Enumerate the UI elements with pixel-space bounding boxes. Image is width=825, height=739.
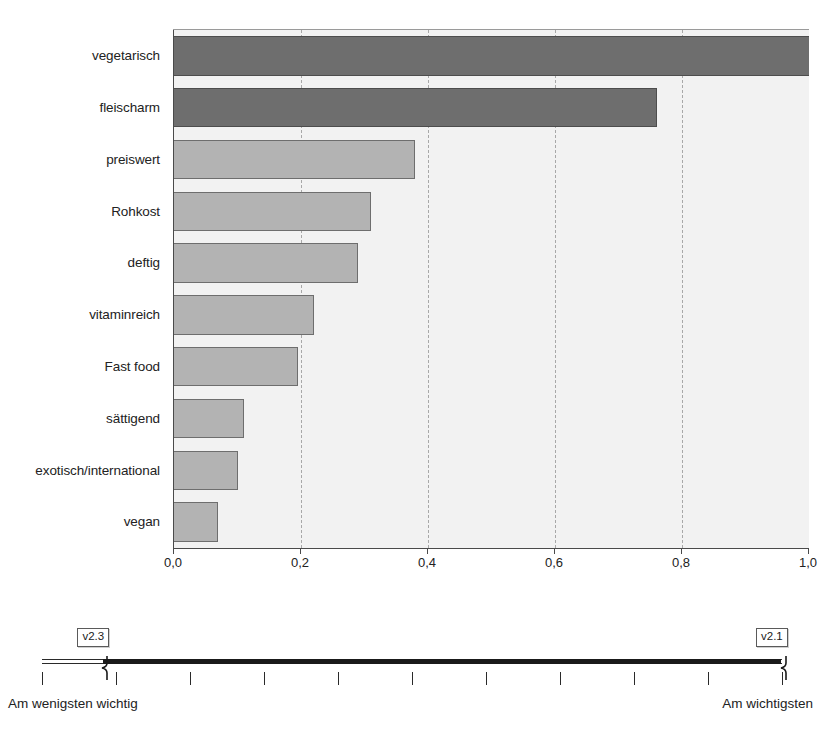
bar[interactable] [174,399,244,438]
bar-row[interactable] [174,496,809,548]
left-handle[interactable] [98,656,109,678]
x-tick-label: 0,4 [418,555,436,570]
x-tick-mark [173,549,174,554]
x-tick-label: 0,6 [545,555,563,570]
bar-chart: vegetarischfleischarmpreiswertRohkostdef… [0,0,825,585]
y-axis-category-labels: vegetarischfleischarmpreiswertRohkostdef… [0,30,167,548]
right-handle-label[interactable]: v2.1 [756,628,788,647]
x-tick-mark [300,549,301,554]
x-tick-mark [681,549,682,554]
scale-tick [634,672,635,685]
bar-row[interactable] [174,30,809,82]
left-handle-label[interactable]: v2.3 [77,628,109,647]
bar-series [174,30,809,548]
bar-row[interactable] [174,341,809,393]
importance-scale: v2.3v2.1 Am wenigsten wichtig Am wichtig… [0,612,825,739]
bar[interactable] [174,451,238,490]
y-axis-label: preiswert [0,134,167,186]
bar[interactable] [174,347,298,386]
bar[interactable] [174,88,657,127]
scale-tick [708,672,709,685]
scale-tick [264,672,265,685]
scale-tick [412,672,413,685]
scale-left-label: Am wenigsten wichtig [8,696,138,711]
x-tick-mark [427,549,428,554]
x-tick-mark [808,549,809,554]
scale-tick [190,672,191,685]
bar-row[interactable] [174,185,809,237]
y-axis-label: exotisch/international [0,444,167,496]
y-axis-label: vegan [0,496,167,548]
bar-row[interactable] [174,82,809,134]
scale-tick [486,672,487,685]
scale-right-label: Am wichtigsten [722,696,813,711]
bar-row[interactable] [174,237,809,289]
right-handle[interactable] [777,656,788,678]
y-axis-label: Rohkost [0,185,167,237]
bar-row[interactable] [174,444,809,496]
bar-row[interactable] [174,134,809,186]
bar[interactable] [174,36,809,75]
scale-tick [116,672,117,685]
bar-row[interactable] [174,393,809,445]
y-axis-label: deftig [0,237,167,289]
scale-tick [42,672,43,685]
y-axis-label: sättigend [0,393,167,445]
x-tick-label: 0,2 [291,555,309,570]
x-tick-label: 1,0 [799,555,817,570]
y-axis-label: Fast food [0,341,167,393]
x-tick-label: 0,0 [164,555,182,570]
x-tick-label: 0,8 [672,555,690,570]
y-axis-label: vegetarisch [0,30,167,82]
scale-track-fill [103,659,781,664]
figure: vegetarischfleischarmpreiswertRohkostdef… [0,0,825,739]
x-tick-mark [554,549,555,554]
y-axis-label: vitaminreich [0,289,167,341]
bar-row[interactable] [174,289,809,341]
bar[interactable] [174,192,371,231]
scale-tick [338,672,339,685]
x-axis: 0,00,20,40,60,81,0 [173,549,808,573]
bar[interactable] [174,502,218,541]
bar[interactable] [174,243,358,282]
y-axis-label: fleischarm [0,82,167,134]
scale-tick [560,672,561,685]
plot-area [173,30,809,549]
bar[interactable] [174,140,415,179]
bar[interactable] [174,295,314,334]
